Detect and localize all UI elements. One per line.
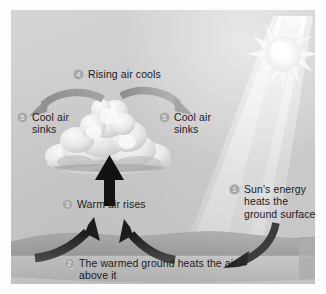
label-step2-line2: above it — [79, 269, 117, 281]
label-step5-right-line1: Cool air — [174, 111, 211, 123]
ground-heat-arrow-left — [35, 217, 100, 258]
label-step4: 4Rising air cools — [73, 68, 161, 80]
badge-2: 2 — [64, 258, 75, 269]
label-step5-left-line2: sinks — [32, 123, 56, 135]
label-step2: 2The warmed ground heats the airabove it — [64, 257, 237, 282]
label-step5-right: 5Cool airsinks — [159, 111, 211, 136]
label-step5-left-line1: Cool air — [32, 111, 69, 123]
illustration-panel — [11, 10, 315, 284]
label-step5-left: 5Cool airsinks — [17, 111, 69, 136]
label-step1-line2: heats the — [244, 195, 288, 207]
label-step4-text: Rising air cools — [88, 68, 161, 80]
label-step3: 3Warm air rises — [62, 198, 146, 210]
label-step1: 1Sun's energyheats theground surface — [229, 183, 315, 220]
label-step5-right-text: Cool airsinks — [174, 111, 211, 136]
badge-4: 4 — [73, 69, 84, 80]
badge-5-left: 5 — [17, 112, 28, 123]
label-step5-right-line2: sinks — [174, 123, 198, 135]
diagram-canvas: 4Rising air cools 5Cool airsinks 5Cool a… — [0, 0, 326, 294]
label-step2-line1: The warmed ground heats the air — [79, 257, 237, 269]
label-step2-text: The warmed ground heats the airabove it — [79, 257, 237, 282]
ground-heat-arrow-right — [119, 219, 175, 260]
label-step1-line3: ground surface — [244, 208, 315, 220]
label-step5-left-text: Cool airsinks — [32, 111, 69, 136]
badge-3: 3 — [62, 199, 73, 210]
label-step1-text: Sun's energyheats theground surface — [244, 183, 315, 220]
badge-5-right: 5 — [159, 112, 170, 123]
badge-1: 1 — [229, 184, 240, 195]
arrow-layer — [11, 10, 315, 284]
label-step3-text: Warm air rises — [77, 198, 146, 210]
label-step1-line1: Sun's energy — [244, 183, 306, 195]
